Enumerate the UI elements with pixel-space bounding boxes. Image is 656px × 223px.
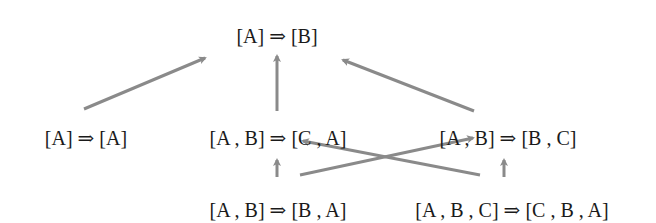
node-a-implies-a: [A] ⇒ [A] [45,126,127,150]
node-ab-implies-ca: [A , B] ⇒ [C , A] [210,126,347,150]
node-ab-implies-bc: [A , B] ⇒ [B , C] [440,126,577,150]
node-abc-implies-cba: [A , B , C] ⇒ [C , B , A] [415,198,608,222]
node-ab-implies-ba: [A , B] ⇒ [B , A] [210,198,347,222]
edge-abbc-to-top [343,60,474,111]
node-a-implies-b: [A] ⇒ [B] [236,24,317,48]
edge-aa-to-top [84,58,205,109]
diagram-canvas: [A] ⇒ [B] [A] ⇒ [A] [A , B] ⇒ [C , A] [A… [0,0,656,223]
edges-layer [0,0,656,223]
